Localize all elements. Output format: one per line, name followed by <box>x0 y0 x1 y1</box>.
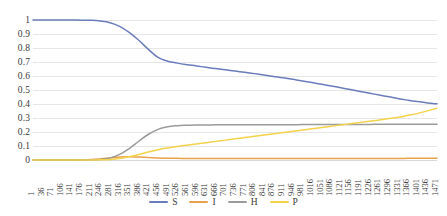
y-tick-label: 0.4 <box>0 99 30 109</box>
legend-swatch-icon <box>189 201 208 203</box>
legend-swatch-icon <box>149 201 168 203</box>
y-tick-label: 0.3 <box>0 113 30 123</box>
y-tick-label: 0.7 <box>0 57 30 67</box>
y-axis: 10.90.80.70.60.50.40.30.20.10 <box>0 0 30 170</box>
y-tick-label: 1 <box>0 15 30 25</box>
legend-label: H <box>251 197 258 207</box>
legend-item-h[interactable]: H <box>228 197 258 207</box>
series-line-h <box>33 124 437 160</box>
line-chart: 10.90.80.70.60.50.40.30.20.10 1367110614… <box>0 0 447 216</box>
legend-label: S <box>172 197 177 207</box>
series-layer <box>33 20 437 160</box>
legend-swatch-icon <box>228 201 247 203</box>
legend-swatch-icon <box>270 201 289 203</box>
plot-area <box>33 20 437 160</box>
chart-legend: SIHP <box>0 193 447 211</box>
legend-item-s[interactable]: S <box>149 197 177 207</box>
legend-label: I <box>212 197 215 207</box>
legend-label: P <box>293 197 298 207</box>
y-tick-label: 0.9 <box>0 29 30 39</box>
legend-item-i[interactable]: I <box>189 197 215 207</box>
series-line-s <box>33 20 437 104</box>
y-tick-label: 0.8 <box>0 43 30 53</box>
legend-item-p[interactable]: P <box>270 197 298 207</box>
y-tick-label: 0.6 <box>0 71 30 81</box>
series-line-p <box>33 108 437 160</box>
y-tick-label: 0 <box>0 155 30 165</box>
y-tick-label: 0.1 <box>0 141 30 151</box>
y-tick-label: 0.2 <box>0 127 30 137</box>
y-tick-label: 0.5 <box>0 85 30 95</box>
x-axis: 1367110614117621124628131635138642145649… <box>33 162 437 196</box>
